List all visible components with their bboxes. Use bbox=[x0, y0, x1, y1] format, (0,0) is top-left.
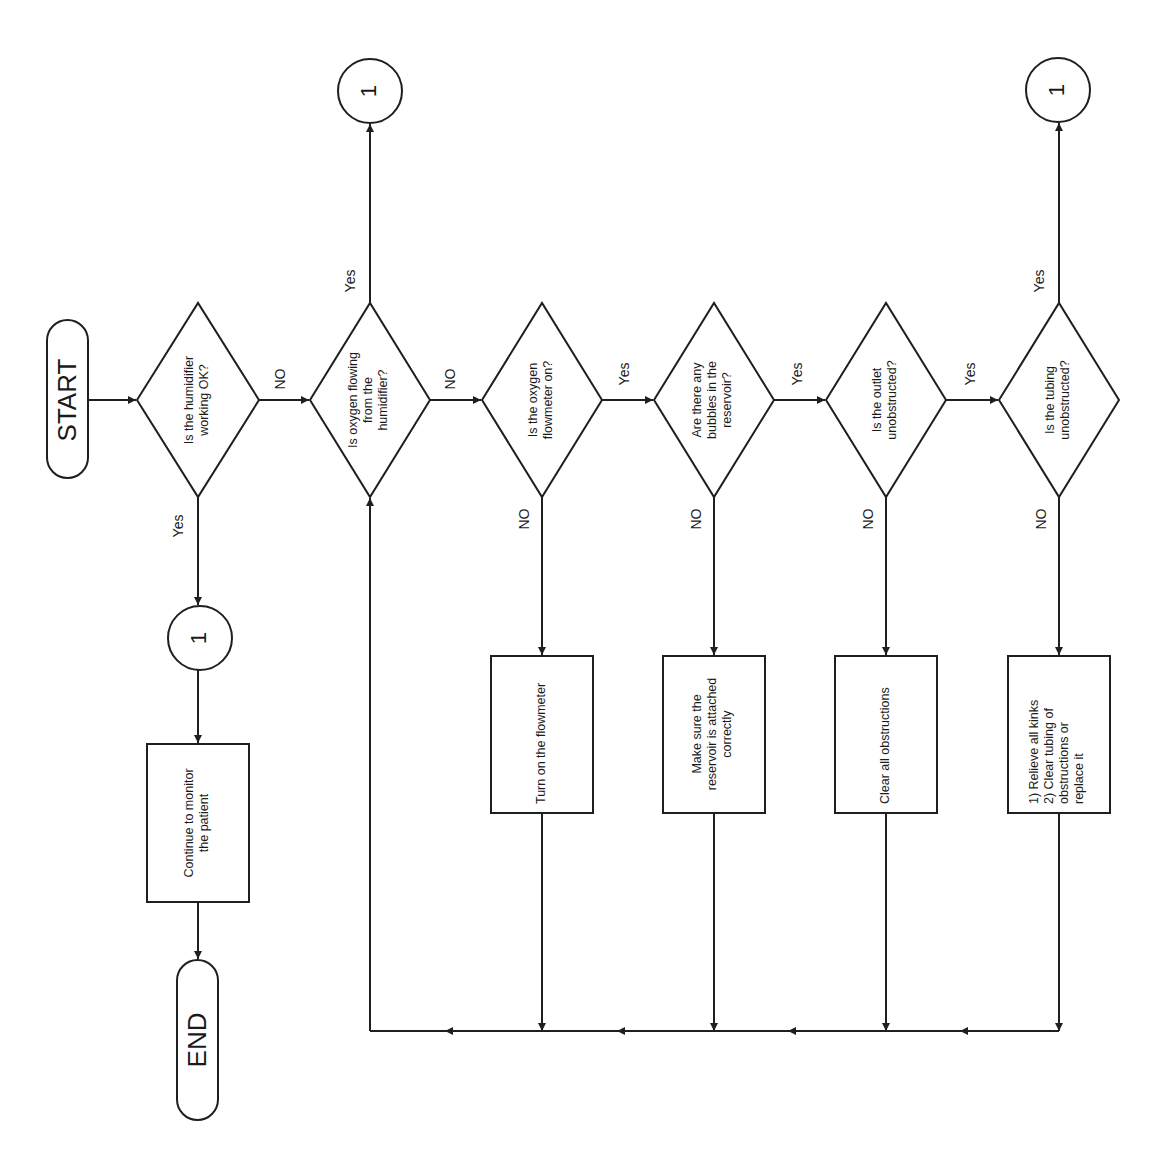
process-turn-on-flowmeter-label: Turn on the flowmeter bbox=[534, 664, 550, 804]
decision-tubing-unobstructed-label: Is the tubing unobstructed? bbox=[1043, 345, 1075, 455]
process-attach-reservoir-label: Make sure the reservoir is attached corr… bbox=[690, 664, 738, 804]
process-clear-obstructions-label: Clear all obstructions bbox=[878, 664, 894, 804]
end-label: END bbox=[182, 990, 214, 1090]
d4-yes-label: Yes bbox=[789, 359, 807, 389]
connector-1-in-label: 1 bbox=[186, 618, 214, 658]
decision-oxygen-flowing-label: Is oxygen flowing from the humidifier? bbox=[346, 345, 394, 455]
d2-no-label: NO bbox=[442, 364, 460, 394]
d6-no-label: NO bbox=[1033, 504, 1051, 534]
decision-humidifier-ok-label: Is the humidifier working OK? bbox=[182, 345, 214, 455]
d6-yes-label: Yes bbox=[1031, 266, 1049, 296]
d1-yes-label: Yes bbox=[170, 511, 188, 541]
d4-no-label: NO bbox=[688, 504, 706, 534]
d3-no-label: NO bbox=[516, 504, 534, 534]
decision-flowmeter-on-label: Is the oxygen flowmeter on? bbox=[526, 345, 558, 455]
decision-outlet-unobstructed-label: Is the outlet unobstructed? bbox=[870, 345, 902, 455]
d3-yes-label: Yes bbox=[616, 359, 634, 389]
d1-no-label: NO bbox=[272, 364, 290, 394]
start-label: START bbox=[52, 350, 84, 450]
connector-1-out-b-label: 1 bbox=[1044, 70, 1072, 110]
d5-no-label: NO bbox=[860, 504, 878, 534]
d2-yes-label: Yes bbox=[342, 266, 360, 296]
decision-bubbles-reservoir-label: Are there any bubbles in the reservoir? bbox=[690, 345, 738, 455]
process-continue-monitor-label: Continue to monitor the patient bbox=[182, 753, 214, 893]
flowchart-canvas bbox=[0, 0, 1164, 1158]
connector-1-out-a-label: 1 bbox=[356, 71, 384, 111]
process-clear-tubing-label: 1) Relieve all kinks 2) Clear tubing of … bbox=[1027, 664, 1091, 804]
d5-yes-label: Yes bbox=[962, 359, 980, 389]
